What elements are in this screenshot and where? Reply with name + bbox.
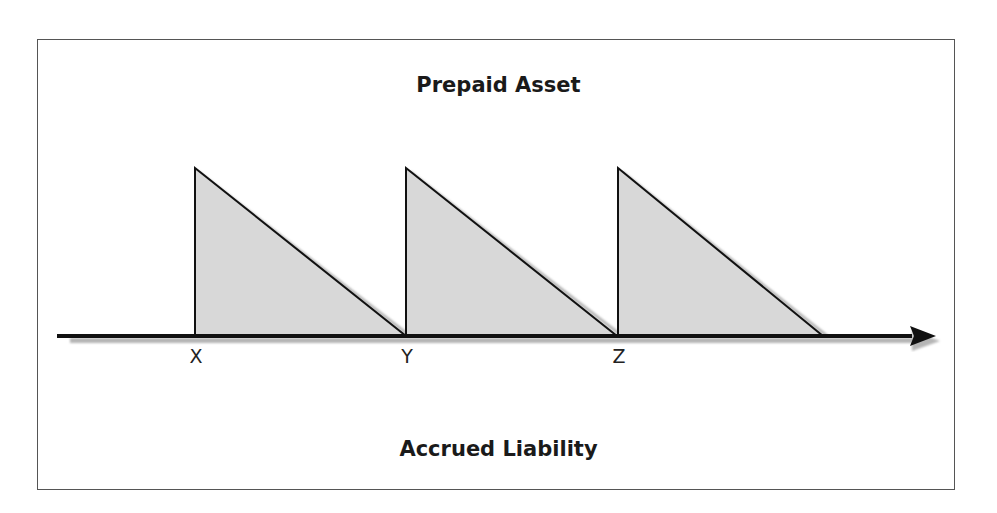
tick-label-x: X — [181, 345, 211, 367]
time-axis — [57, 334, 912, 338]
accrued-liability-label: Accrued Liability — [0, 437, 997, 461]
triangle-y-z — [406, 168, 617, 336]
tick-label-z: Z — [604, 345, 634, 367]
triangle-x-y — [195, 168, 406, 336]
triangle-z-end — [618, 168, 823, 336]
tick-label-y: Y — [392, 345, 422, 367]
